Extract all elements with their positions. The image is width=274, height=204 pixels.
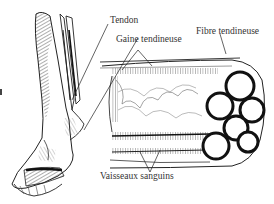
label-tendon: Tendon [110,16,138,26]
label-sheath: Gaine tendineuse [116,35,182,45]
label-fibre: Fibre tendineuse [196,27,259,37]
tendon-diagram: Tendon Gaine tendineuse Fibre tendineuse… [0,0,274,204]
edge-mark [0,89,2,95]
leader-fibre [220,34,226,54]
horse-leg-drawing [12,12,84,196]
label-vessels: Vaisseaux sanguins [100,172,174,182]
tendon-cross-section [100,58,265,168]
